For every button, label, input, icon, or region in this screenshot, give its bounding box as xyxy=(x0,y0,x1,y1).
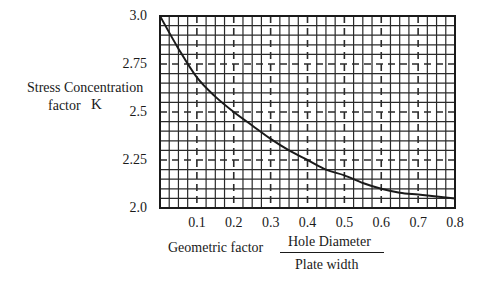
x-tick-label: 0.5 xyxy=(329,216,359,230)
x-axis-fraction-numerator: Hole Diameter xyxy=(288,235,371,249)
y-axis-label-line1: Stress Concentration xyxy=(27,81,143,95)
y-axis-label-line2: factor xyxy=(48,99,81,113)
x-axis-fraction-denominator: Plate width xyxy=(295,258,358,272)
x-tick-label: 0.3 xyxy=(256,216,286,230)
x-tick-label: 0.8 xyxy=(440,216,470,230)
x-tick-label: 0.1 xyxy=(182,216,212,230)
x-tick-label: 0.7 xyxy=(403,216,433,230)
y-tick-label: 3.0 xyxy=(107,9,147,23)
x-tick-label: 0.4 xyxy=(293,216,323,230)
y-tick-label: 2.25 xyxy=(107,153,147,167)
y-tick-label: 2.5 xyxy=(107,105,147,119)
y-axis-symbol: K xyxy=(91,97,102,112)
x-tick-label: 0.6 xyxy=(366,216,396,230)
y-tick-label: 2.0 xyxy=(107,201,147,215)
y-tick-label: 2.75 xyxy=(107,57,147,71)
x-tick-label: 0.2 xyxy=(219,216,249,230)
fraction-bar xyxy=(280,252,384,253)
x-axis-label: Geometric factor xyxy=(168,241,263,255)
